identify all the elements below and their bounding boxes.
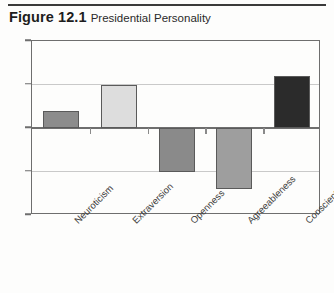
bar-openness [159, 128, 195, 172]
x-axis-tick-mark [90, 128, 92, 134]
bar-extraversion [101, 85, 137, 129]
figure-container: Figure 12.1Presidential Personality 4045… [0, 0, 334, 293]
x-axis-label-agreeableness: Agreeableness [245, 218, 253, 226]
y-axis-tick-mark [25, 213, 31, 215]
bar-conscientiousness [274, 76, 310, 128]
y-axis-tick-mark [25, 126, 31, 128]
figure-number: Figure 12.1 [9, 9, 87, 25]
bar-neuroticism [43, 111, 79, 128]
x-axis-tick-mark [148, 128, 150, 134]
figure-caption: Figure 12.1Presidential Personality [9, 8, 327, 26]
bar-agreeableness [216, 128, 252, 189]
title-divider [8, 4, 326, 6]
x-axis-label-conscientiousness: Conscientiousness [303, 218, 311, 226]
x-axis-tick-mark [205, 128, 207, 134]
y-axis-tick-mark [25, 170, 31, 172]
y-axis-tick-mark [25, 83, 31, 85]
x-axis-label-neuroticism: Neuroticism [72, 218, 80, 226]
x-axis-tick-mark [263, 128, 265, 134]
x-axis-label-extraversion: Extraversion [130, 218, 138, 226]
page-title: Presidential Personality [91, 12, 211, 24]
y-axis-tick-mark [25, 39, 31, 41]
x-axis-label-openness: Openness [188, 218, 196, 226]
